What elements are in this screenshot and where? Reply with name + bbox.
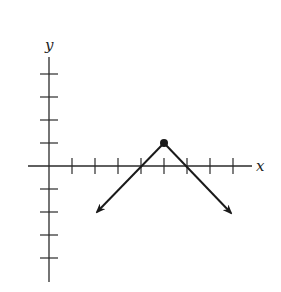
coordinate-plane: y x (0, 0, 281, 292)
left-ray (97, 143, 164, 212)
x-axis-label: x (256, 157, 265, 175)
right-ray (164, 143, 231, 213)
vertex-point (160, 139, 168, 147)
y-axis-label: y (44, 36, 54, 54)
